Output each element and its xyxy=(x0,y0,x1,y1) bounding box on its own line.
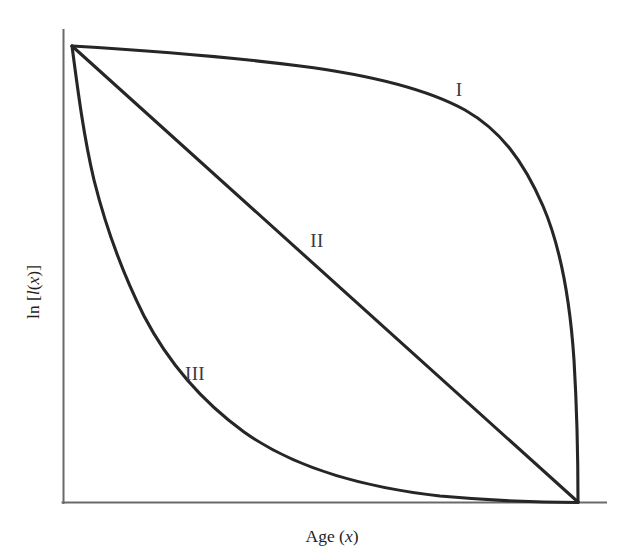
y-axis-label: ln [l(x)] xyxy=(23,265,43,319)
x-axis-label-prefix: Age ( xyxy=(306,526,346,546)
curve-label-type-ii: II xyxy=(310,230,323,251)
y-axis-label-prefix: ln [ xyxy=(23,295,43,319)
survivorship-chart: I II III Age (x) ln [l(x)] xyxy=(0,0,617,559)
y-axis-label-variable-2: x xyxy=(23,276,43,285)
curve-label-type-i: I xyxy=(456,79,463,100)
survivorship-curve-figure: I II III Age (x) ln [l(x)] xyxy=(0,0,617,559)
x-axis-label: Age (x) xyxy=(306,526,359,546)
curve-label-type-iii: III xyxy=(185,363,205,384)
x-axis-label-suffix: ) xyxy=(353,526,359,546)
x-axis-label-variable: x xyxy=(344,526,353,546)
y-axis-label-suffix: )] xyxy=(23,265,43,277)
chart-background xyxy=(0,0,617,559)
